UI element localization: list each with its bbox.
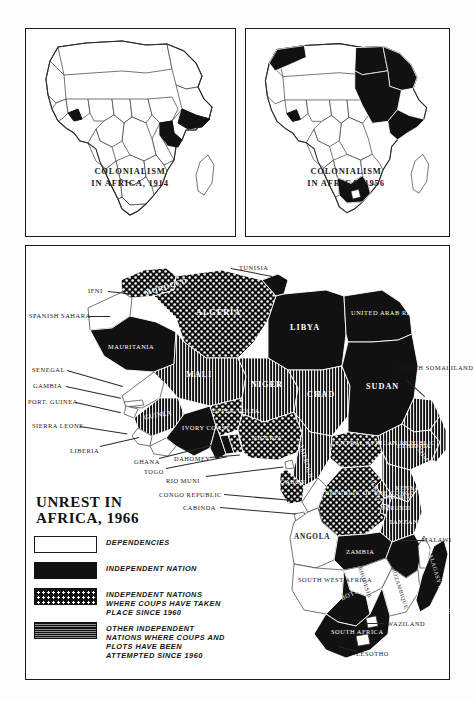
inset-1914-caption: COLONIALISM IN AFRICA, 1914 [30, 165, 230, 189]
legend-label-dependencies: DEPENDENCIES [106, 536, 170, 547]
map-plate: COLONIALISM IN AFRICA, 1914 [0, 0, 473, 701]
africa-outline-1956 [246, 29, 449, 236]
inset1956-shaded-libya [355, 47, 388, 75]
inset-1956-caption-line1: COLONIALISM [248, 165, 444, 177]
label-swaziland: SWAZILAND [383, 620, 425, 627]
leader-swaziland [366, 623, 384, 624]
label-rwanda: RWANDA [384, 494, 411, 501]
leader-malawi [402, 540, 424, 541]
label-gabon: GABON [280, 478, 305, 485]
label-rio-muni: RIO MUNI [166, 477, 200, 484]
legend-swatch-independent-nation [34, 562, 97, 579]
legend-label-independent-nation: INDEPENDENT NATION [106, 562, 197, 573]
label-burundi: BURUNDI [382, 505, 410, 512]
label-togo: TOGO [144, 468, 164, 475]
legend-row-coups[interactable]: INDEPENDENT NATIONS WHERE COUPS HAVE TAK… [34, 588, 234, 618]
legend-row-attempted[interactable]: OTHER INDEPENDENT NATIONS WHERE COUPS AN… [34, 622, 234, 661]
legend-title-line2: AFRICA, 1966 [36, 510, 234, 526]
legend-swatch-dependencies [34, 536, 97, 553]
label-liberia: LIBERIA [70, 447, 99, 454]
map-legend: UNREST IN AFRICA, 1966 DEPENDENCIES INDE… [34, 494, 234, 669]
country-swaziland[interactable] [366, 616, 378, 628]
label-kenya: KENYA [395, 484, 419, 491]
inset-1914-caption-line2: IN AFRICA, 1914 [30, 177, 230, 189]
label-united-arab-republic: UNITED ARAB REPUBLIC [351, 308, 397, 318]
inset1956-lesotho-hole [351, 189, 361, 199]
label-dahomey: DAHOMEY [174, 455, 211, 462]
label-port-guinea: PORT. GUINEA [28, 398, 78, 405]
label-spanish-sahara: SPANISH SAHARA [29, 312, 91, 319]
legend-label-attempted: OTHER INDEPENDENT NATIONS WHERE COUPS AN… [106, 622, 232, 661]
label-central-african-republic: CENTRAL AFRICAN REPUBLIC [331, 439, 387, 447]
label-mali: MALI [186, 371, 212, 378]
label-angola: ANGOLA [294, 534, 330, 541]
label-niger: NIGER [251, 381, 283, 388]
label-ghana: GHANA [134, 458, 160, 465]
inset-1914-caption-line1: COLONIALISM [30, 165, 230, 177]
legend-row-independent-nation[interactable]: INDEPENDENT NATION [34, 562, 234, 579]
inset-1956-caption: COLONIALISM IN AFRICA, 1956 [248, 165, 444, 189]
label-sudan: SUDAN [366, 383, 399, 390]
leader-spanish-sahara [88, 316, 110, 317]
label-french-somaliland: FRENCH SOMALILAND [395, 364, 443, 371]
label-tanzania: TANZANIA [389, 518, 426, 525]
label-libya: LIBYA [290, 324, 320, 331]
label-gambia: GAMBIA [33, 382, 62, 389]
inset-map-colonialism-1914[interactable]: COLONIALISM IN AFRICA, 1914 [25, 28, 236, 237]
inset-1956-caption-line2: IN AFRICA, 1956 [248, 177, 444, 189]
legend-label-coups: INDEPENDENT NATIONS WHERE COUPS HAVE TAK… [106, 588, 228, 618]
label-chad: CHAD [307, 391, 335, 398]
label-sierra-leone: SIERRA LEONE [32, 422, 84, 429]
country-rio-muni[interactable] [285, 460, 294, 469]
label-algeria: ALGERIA [196, 309, 241, 316]
label-ifni: IFNI [88, 287, 103, 294]
legend-swatch-coups [34, 588, 97, 605]
label-mauritania: MAURITANIA [108, 343, 154, 350]
label-ivory-coast: IVORY COAST [182, 424, 212, 431]
label-south-west-africa: SOUTH WEST AFRICA [298, 576, 332, 584]
country-central-african-republic[interactable] [330, 432, 382, 468]
label-upper-volta: UPPER VOLTA [212, 407, 246, 414]
legend-title-line1: UNREST IN [36, 494, 234, 510]
legend-row-dependencies[interactable]: DEPENDENCIES [34, 536, 234, 553]
label-lesotho: LESOTHO [356, 650, 389, 657]
label-malawi: MALAWI [422, 536, 452, 543]
legend-swatch-attempted [34, 622, 97, 639]
label-senegal: SENEGAL [32, 366, 65, 373]
label-zambia: ZAMBIA [346, 548, 375, 555]
legend-title: UNREST IN AFRICA, 1966 [36, 494, 234, 526]
label-south-africa: SOUTH AFRICA [331, 628, 367, 636]
inset-map-colonialism-1956[interactable]: COLONIALISM IN AFRICA, 1956 [245, 28, 450, 237]
label-nigeria: NIGERIA [252, 434, 282, 441]
africa-outline-1914 [26, 29, 235, 236]
